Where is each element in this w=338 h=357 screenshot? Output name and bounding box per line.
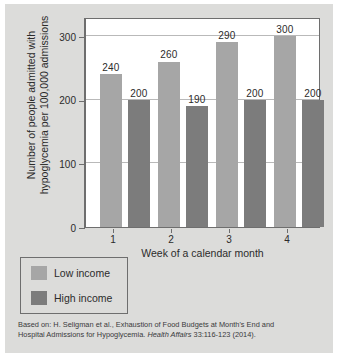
legend-item-high-income: High income [31,291,112,305]
value-label-low-week-2: 260 [149,49,189,60]
bar-low-income-week-4 [274,36,296,227]
value-label-high-week-2: 190 [177,94,217,105]
x-tick-label-2: 2 [156,234,186,245]
plot-area: 240 200 260 190 290 200 300 200 [85,18,320,228]
bar-high-income-week-2 [186,106,208,227]
y-axis-title: Number of people admitted with hypoglyce… [25,10,51,200]
legend-label-high-income: High income [54,292,112,304]
y-tick-mark-200 [79,101,85,102]
figure-hypoglycemia-bar-chart: 240 200 260 190 290 200 300 200 0 100 20… [0,0,338,357]
legend-item-low-income: Low income [31,266,110,280]
x-tick-mark-3 [229,229,230,233]
bar-low-income-week-3 [216,42,238,227]
y-axis-title-line-2: hypoglycemia per 100,000 admissions [38,16,50,195]
bar-high-income-week-4 [302,100,324,227]
x-tick-mark-4 [287,229,288,233]
x-tick-mark-2 [171,229,172,233]
value-label-low-week-3: 290 [207,30,247,41]
x-tick-label-1: 1 [98,234,128,245]
value-label-high-week-3: 200 [235,88,275,99]
bar-high-income-week-3 [244,100,266,227]
x-tick-label-3: 3 [214,234,244,245]
y-tick-mark-300 [79,37,85,38]
caption-line-2-suffix: 33:116-123 (2014). [191,330,255,339]
x-tick-mark-1 [113,229,114,233]
y-axis-title-line-1: Number of people admitted with [25,31,37,179]
value-label-high-week-1: 200 [119,88,159,99]
x-tick-label-4: 4 [272,234,302,245]
legend-label-low-income: Low income [54,267,110,279]
caption-line-1: Based on: H. Seligman et al., Exhaustion… [18,320,274,329]
y-tick-mark-100 [79,164,85,165]
legend: Low income High income [20,257,128,314]
value-label-low-week-4: 300 [265,24,305,35]
caption-line-2-prefix: Hospital Admissions for Hypoglycemia. [18,330,147,339]
legend-swatch-low-income [31,266,47,280]
value-label-high-week-4: 200 [293,88,333,99]
legend-swatch-high-income [31,291,47,305]
bar-low-income-week-2 [158,62,180,227]
value-label-low-week-1: 240 [91,62,131,73]
bar-high-income-week-1 [128,100,150,227]
figure-caption: Based on: H. Seligman et al., Exhaustion… [18,320,318,339]
y-tick-mark-0 [79,228,85,229]
y-axis-line [84,18,85,229]
caption-journal-name: Health Affairs [147,330,191,339]
y-tick-label-0: 0 [36,223,76,234]
